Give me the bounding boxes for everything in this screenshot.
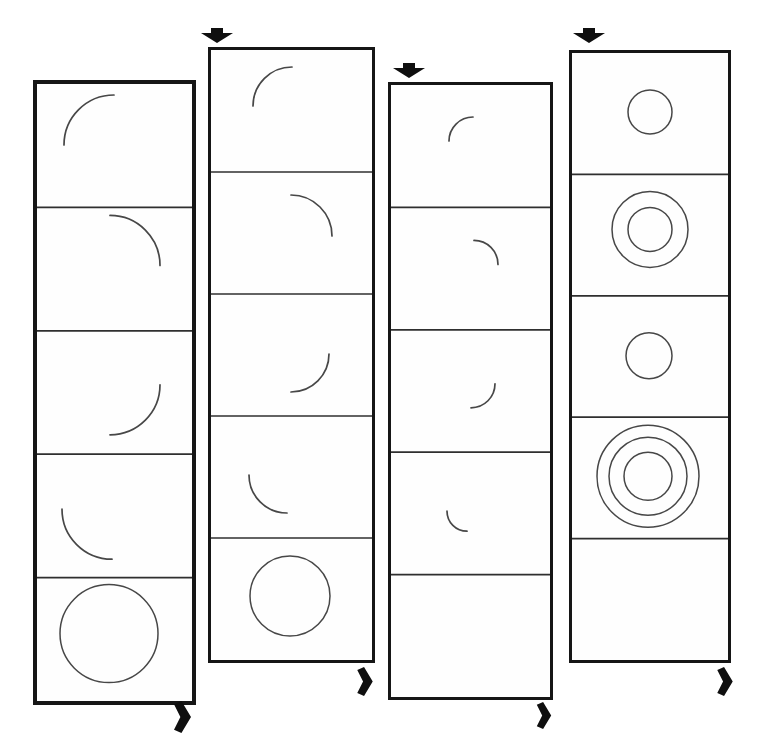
bottom-arrow-strip-1-right-icon bbox=[174, 701, 191, 737]
right-arrowhead bbox=[537, 702, 551, 729]
down-arrowhead bbox=[201, 28, 233, 43]
filmstrip-3-drawing bbox=[388, 82, 553, 700]
top-arrow-strip-2-down-icon bbox=[201, 28, 233, 47]
filmstrip-1-drawing bbox=[33, 80, 196, 705]
strip-border bbox=[571, 52, 730, 662]
top-arrow-strip-3-down-icon bbox=[393, 63, 425, 82]
down-arrowhead bbox=[393, 63, 425, 78]
filmstrip-4-drawing bbox=[569, 50, 731, 663]
right-arrowhead bbox=[357, 667, 372, 696]
strip-border bbox=[35, 82, 194, 703]
down-arrowhead bbox=[573, 28, 605, 43]
filmstrip-2-drawing bbox=[208, 47, 375, 663]
filmstrip-2 bbox=[208, 47, 375, 663]
right-arrowhead bbox=[717, 667, 732, 696]
bottom-arrow-strip-3-right-icon bbox=[536, 702, 552, 733]
filmstrip-3 bbox=[388, 82, 553, 700]
filmstrip-1 bbox=[33, 80, 196, 705]
strip-border bbox=[210, 49, 374, 662]
right-arrowhead bbox=[174, 701, 191, 733]
bottom-arrow-strip-4-right-icon bbox=[717, 667, 733, 700]
filmstrip-4 bbox=[569, 50, 731, 663]
filmstrip-sequence-figure bbox=[0, 0, 757, 743]
strip-border bbox=[390, 84, 552, 699]
top-arrow-strip-4-down-icon bbox=[573, 28, 605, 47]
bottom-arrow-strip-2-right-icon bbox=[357, 667, 373, 700]
